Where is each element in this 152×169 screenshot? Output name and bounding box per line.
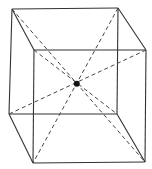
edge-back-bottom-left-to-back-top-left: [9, 9, 12, 114]
edge-back-bottom-left-to-front-bottom-left: [9, 114, 33, 163]
edge-back-bottom-right-to-front-bottom-right: [117, 114, 145, 162]
center-point: [74, 81, 80, 87]
edge-back-top-left-to-front-top-left: [12, 9, 34, 50]
edge-back-top-right-to-front-top-right: [118, 8, 146, 50]
edge-front-bottom-right-to-front-bottom-left: [33, 162, 145, 163]
edge-back-top-left-to-back-top-right: [12, 8, 118, 9]
edge-front-top-right-to-front-bottom-right: [145, 50, 146, 162]
edge-back-top-right-to-back-bottom-right: [117, 8, 118, 114]
edge-front-bottom-left-to-front-top-left: [33, 50, 34, 163]
cube-diagram: [0, 0, 152, 169]
